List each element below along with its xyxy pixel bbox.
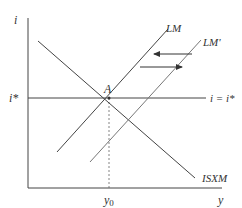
lm-curve xyxy=(57,29,168,152)
y-axis-label: i xyxy=(14,13,17,27)
islm-bop-diagram: i y i* i = i* A LM LM' ISXM y0 xyxy=(0,0,242,208)
x-axis-label: y xyxy=(217,193,224,207)
point-A-label: A xyxy=(103,82,112,96)
isxm-label: ISXM xyxy=(201,172,228,184)
lm-prime-label: LM' xyxy=(202,36,221,48)
i-star-right-label: i = i* xyxy=(210,92,235,104)
y0-label: y0 xyxy=(103,193,114,208)
isxm-curve xyxy=(38,41,195,178)
lm-label: LM xyxy=(165,22,182,34)
point-A-marker xyxy=(108,97,111,100)
i-star-left-label: i* xyxy=(9,91,18,105)
